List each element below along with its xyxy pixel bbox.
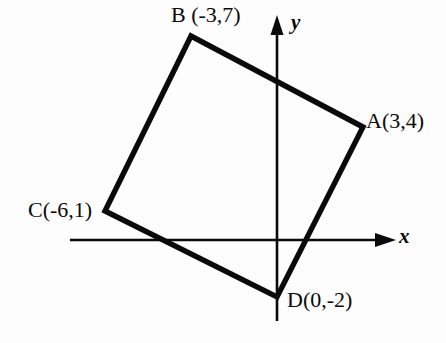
figure-canvas xyxy=(0,0,446,343)
x-axis-arrowhead xyxy=(375,233,396,247)
vertex-label-c: C(-6,1) xyxy=(28,199,92,221)
y-axis-label: y xyxy=(291,12,300,33)
vertex-label-a: A(3,4) xyxy=(366,110,424,132)
y-axis-arrowhead xyxy=(271,15,284,35)
coordinate-figure: B (-3,7) A(3,4) C(-6,1) D(0,-2) y x xyxy=(0,0,446,343)
vertex-label-d: D(0,-2) xyxy=(287,289,352,311)
vertex-label-b: B (-3,7) xyxy=(171,4,241,26)
quadrilateral-abcd xyxy=(105,36,363,297)
x-axis-label: x xyxy=(399,226,410,247)
